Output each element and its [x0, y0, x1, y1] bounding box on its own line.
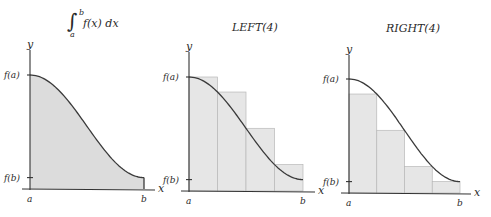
- riemann-rectangle: [405, 167, 433, 193]
- integrand: f(x) dx: [82, 17, 119, 30]
- left-sum-title: LEFT(4): [231, 21, 278, 34]
- b-label: b: [300, 196, 306, 206]
- x-axis-label: x: [474, 186, 481, 199]
- right-sum-panel: yxf(a)f(b)ab: [322, 43, 481, 208]
- x-axis: [22, 189, 155, 190]
- riemann-rectangle: [349, 94, 377, 193]
- fa-label: f(a): [322, 74, 339, 84]
- integral-title: ∫ b a f(x) dx: [67, 8, 119, 39]
- integral-upper-limit: b: [79, 8, 84, 17]
- y-axis-label: y: [26, 38, 34, 51]
- right-sum-title: RIGHT(4): [385, 22, 440, 35]
- integral-lower-limit: a: [70, 30, 75, 39]
- a-label: a: [186, 196, 191, 206]
- riemann-sum-diagram: ∫ b a f(x) dx LEFT(4) RIGHT(4) yxf(a)f(b…: [0, 0, 491, 217]
- fb-label: f(b): [162, 175, 180, 185]
- fa-label: f(a): [162, 72, 179, 82]
- b-label: b: [457, 198, 463, 208]
- fb-label: f(b): [3, 173, 21, 183]
- riemann-rectangle: [377, 130, 405, 193]
- a-label: a: [346, 198, 351, 208]
- y-axis-label: y: [185, 40, 193, 53]
- riemann-rectangle: [189, 77, 218, 191]
- b-label: b: [141, 194, 147, 204]
- riemann-rectangle: [218, 92, 247, 191]
- fb-label: f(b): [322, 177, 340, 187]
- left-sum-panel: yxf(a)f(b)ab: [162, 40, 325, 206]
- a-label: a: [27, 194, 32, 204]
- fa-label: f(a): [3, 70, 20, 80]
- riemann-rectangle: [432, 182, 460, 193]
- y-axis-label: y: [345, 43, 353, 56]
- integral-panel: yxf(a)f(b)ab: [3, 38, 165, 204]
